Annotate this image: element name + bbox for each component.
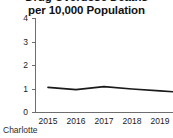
plot-area: 4 3 2 1 0 2015 2016 2017 2018 2019 — [35, 18, 173, 112]
y-tick-label-3: 3 — [14, 38, 28, 47]
x-tick-label-2018: 2018 — [119, 116, 145, 126]
chart-figure: Drug Overdose Deaths per 10,000 Populati… — [0, 0, 173, 138]
x-tick-label-2019: 2019 — [147, 116, 173, 126]
y-tick-0 — [32, 112, 36, 113]
series-line-charlotte — [35, 18, 173, 112]
x-axis-line — [35, 112, 173, 113]
x-tick-label-2015: 2015 — [35, 116, 61, 126]
y-tick-label-0: 0 — [14, 108, 28, 117]
chart-footnote: Charlotte — [3, 125, 38, 135]
y-tick-label-1: 1 — [14, 85, 28, 94]
y-tick-label-2: 2 — [14, 61, 28, 70]
x-tick-label-2017: 2017 — [91, 116, 117, 126]
x-tick-label-2016: 2016 — [63, 116, 89, 126]
y-tick-label-4: 4 — [14, 14, 28, 23]
chart-title-clipped-line: Drug Overdose Deaths — [0, 0, 173, 4]
